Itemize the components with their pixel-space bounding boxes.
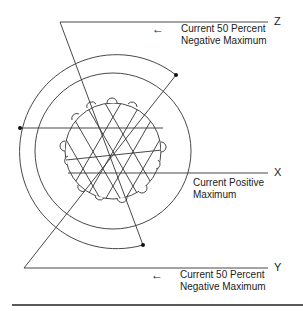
y-caption: Current 50 Percent Negative Maximum bbox=[180, 269, 266, 293]
y-arrow-icon: ← bbox=[151, 269, 163, 281]
z-caption: Current 50 Percent Negative Maximum bbox=[181, 23, 267, 47]
y-axis-label: Y bbox=[274, 261, 281, 273]
z-arrow-icon: ← bbox=[152, 23, 164, 35]
x-caption: Current Positive Maximum bbox=[193, 177, 264, 201]
terminal-dot bbox=[18, 126, 22, 130]
y-axis-line bbox=[24, 75, 268, 268]
terminal-dot bbox=[141, 243, 145, 247]
z-axis-label: Z bbox=[274, 15, 281, 27]
x-axis-label: X bbox=[274, 166, 281, 178]
z-axis-line bbox=[60, 22, 268, 245]
terminal-dot bbox=[174, 73, 178, 77]
